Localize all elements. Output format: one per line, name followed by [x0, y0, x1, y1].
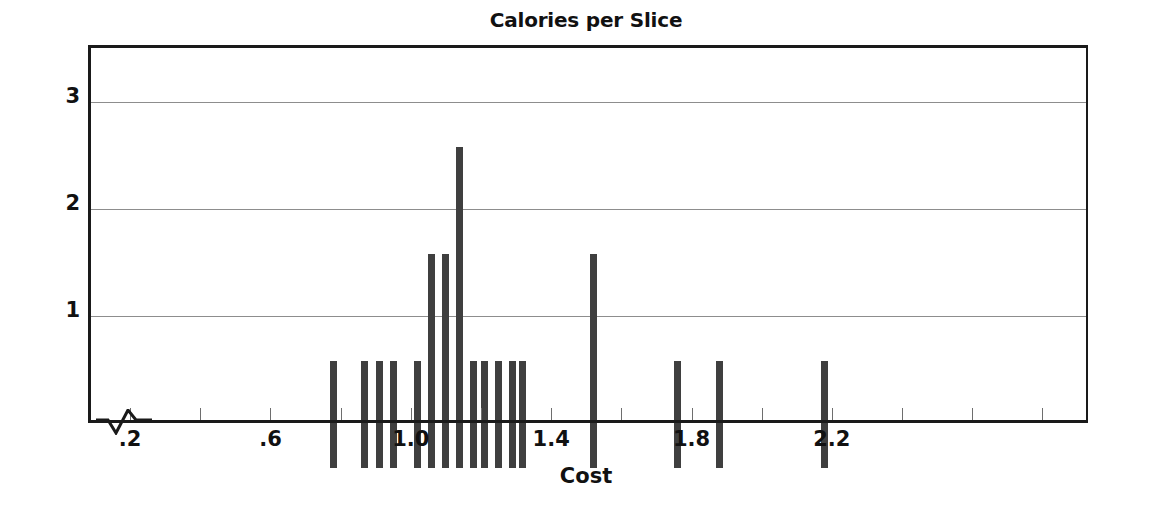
x-tick-2	[762, 408, 763, 420]
x-tick-1	[411, 408, 412, 420]
histogram-bar	[716, 361, 723, 468]
x-axis-line	[88, 420, 1088, 423]
x-tick-2.4	[902, 408, 903, 420]
histogram-bar	[361, 361, 368, 468]
x-tick-1.4	[551, 408, 552, 420]
x-axis-title: Cost	[0, 464, 1172, 488]
plot-area	[88, 45, 1088, 420]
bars-layer	[179, 93, 1172, 468]
histogram-bar	[674, 361, 681, 468]
page-title: Calories per Slice	[0, 8, 1172, 32]
histogram-bar	[414, 361, 421, 468]
x-tick-0.6	[270, 408, 271, 420]
x-tick-2.8	[1042, 408, 1043, 420]
histogram-bar	[390, 361, 397, 468]
x-tick-1.2	[481, 408, 482, 420]
histogram-bar	[495, 361, 502, 468]
x-tick-label-1.8: 1.8	[652, 427, 732, 451]
histogram-figure: Calories per Slice Frequency 123 .2.61.0…	[0, 0, 1172, 512]
histogram-bar	[470, 361, 477, 468]
histogram-bar	[330, 361, 337, 468]
histogram-bar	[509, 361, 516, 468]
x-tick-0.4	[200, 408, 201, 420]
x-tick-label-1.0: 1.0	[371, 427, 451, 451]
x-tick-2.6	[972, 408, 973, 420]
x-tick-1.6	[621, 408, 622, 420]
axis-break-icon	[96, 409, 152, 435]
x-tick-label-1.4: 1.4	[511, 427, 591, 451]
x-tick-0.8	[341, 408, 342, 420]
y-tick-label-3: 3	[40, 86, 80, 107]
y-tick-label-1: 1	[40, 300, 80, 321]
histogram-bar	[821, 361, 828, 468]
x-tick-1.8	[692, 408, 693, 420]
x-tick-label-2.2: 2.2	[792, 427, 872, 451]
x-tick-2.2	[832, 408, 833, 420]
histogram-bar	[376, 361, 383, 468]
histogram-bar	[519, 361, 526, 468]
x-tick-label-.6: .6	[230, 427, 310, 451]
y-tick-label-2: 2	[40, 193, 80, 214]
